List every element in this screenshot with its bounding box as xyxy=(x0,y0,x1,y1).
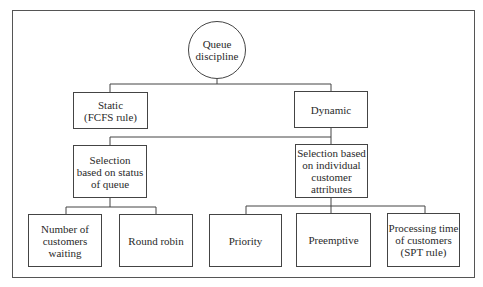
node-number-waiting: Number of customers waiting xyxy=(28,214,102,267)
node-processing-time: Processing time of customers (SPT rule) xyxy=(387,213,460,267)
node-static: Static (FCFS rule) xyxy=(73,92,148,129)
node-dynamic: Dynamic xyxy=(294,91,368,128)
node-selection-attributes: Selection based on individual customer a… xyxy=(295,144,368,198)
node-selection-status: Selection based on status of queue xyxy=(73,145,147,198)
node-preemptive: Preemptive xyxy=(296,213,371,267)
node-round-robin: Round robin xyxy=(119,214,193,267)
node-queue-discipline: Queue discipline xyxy=(188,21,246,79)
node-priority: Priority xyxy=(209,214,282,267)
